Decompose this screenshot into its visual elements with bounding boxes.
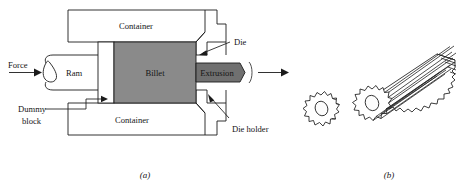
die-holder-upper-inner-step [196, 42, 226, 55]
gear-cross-section [303, 92, 340, 127]
ram-label: Ram [66, 68, 83, 78]
force-label: Force [8, 60, 28, 70]
extrusion-figure: Force Ram Dummy block Container Containe… [0, 0, 469, 192]
dummy-block-label-line1: Dummy [18, 104, 47, 114]
panel-a-group: Force Ram Dummy block Container Containe… [8, 10, 289, 180]
gear-extrusion-bar [353, 46, 457, 121]
figure-canvas: Force Ram Dummy block Container Containe… [0, 0, 469, 192]
die-holder-lower-outline [205, 90, 226, 135]
ram-teardrop-loop [43, 61, 56, 82]
billet-label: Billet [145, 68, 165, 78]
caption-a: (a) [140, 170, 151, 180]
container-bottom-label: Container [115, 115, 149, 125]
panel-b-group: (b) [303, 46, 456, 180]
container-top-label: Container [119, 21, 153, 31]
extrusion-break-symbol [249, 62, 252, 83]
die-label: Die [234, 37, 247, 47]
extrusion-label: Extrusion [200, 68, 234, 78]
dummy-block-label-line2: block [22, 116, 42, 126]
dummy-block-slab [98, 42, 114, 103]
caption-b: (b) [384, 170, 395, 180]
extrusion-exit-arrow [258, 69, 289, 77]
die-holder-label: Die holder [232, 124, 269, 134]
die-leader [199, 42, 230, 56]
